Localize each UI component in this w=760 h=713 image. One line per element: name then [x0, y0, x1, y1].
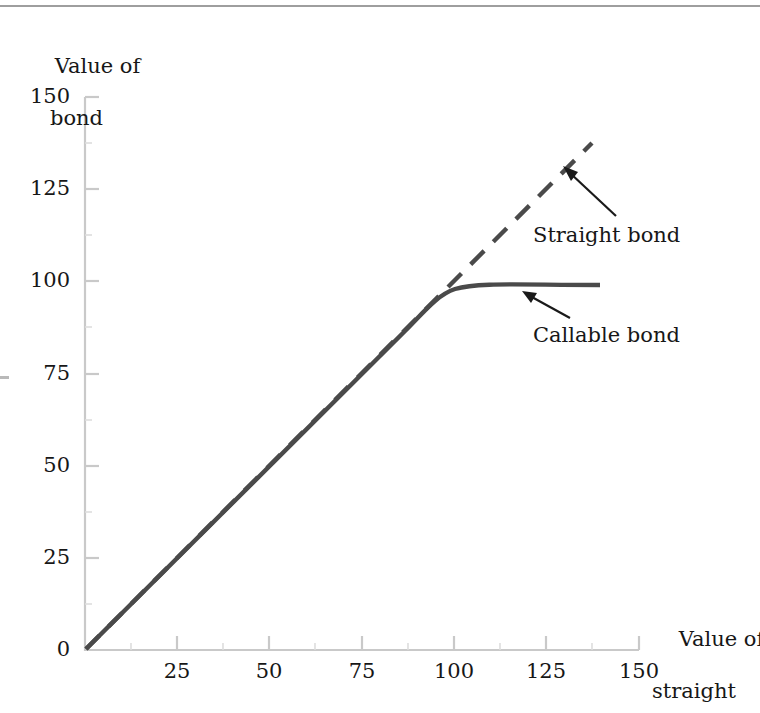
x-axis-title-line1: Value of: [679, 627, 760, 651]
x-tick-label-50: 50: [239, 659, 299, 683]
annotation-leader-straight-bond: [563, 166, 616, 216]
x-tick-label-75: 75: [332, 659, 392, 683]
y-tick-label-100: 100: [8, 268, 70, 292]
annotation-label-callable-bond: Callable bond: [533, 323, 680, 347]
y-tick-label-25: 25: [8, 545, 70, 569]
y-tick-label-125: 125: [8, 176, 70, 200]
y-tick-label-0: 0: [8, 637, 70, 661]
x-tick-label-25: 25: [147, 659, 207, 683]
x-tick-label-125: 125: [516, 659, 576, 683]
y-tick-label-150: 150: [8, 84, 70, 108]
annotation-label-straight-bond: Straight bond: [533, 223, 680, 247]
x-tick-label-100: 100: [424, 659, 484, 683]
figure-callable-bond-value: Value of bond Value of straight bond 150…: [0, 0, 760, 713]
annotation-leader-callable-bond: [522, 291, 570, 318]
y-tick-label-75: 75: [8, 361, 70, 385]
x-axis-title: Value of straight bond: [652, 600, 760, 713]
y-tick-label-50: 50: [8, 453, 70, 477]
series-line-callable-bond: [86, 284, 600, 649]
x-tick-label-150: 150: [609, 659, 669, 683]
y-axis-title-line1: Value of: [55, 54, 141, 78]
y-axis-title-line2: bond: [28, 105, 140, 131]
